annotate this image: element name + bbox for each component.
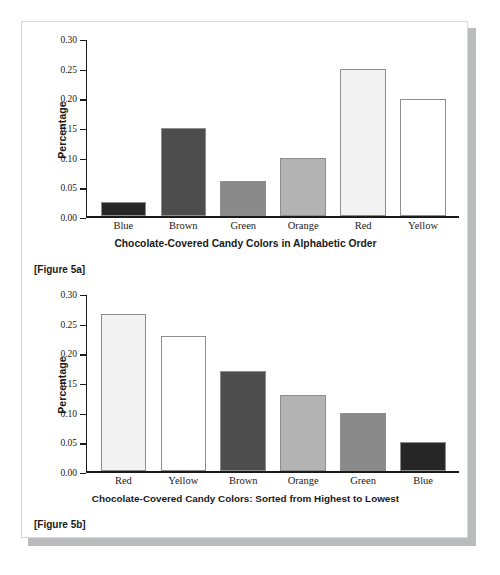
plot-area-5b: 0.300.250.200.150.100.050.00 xyxy=(86,295,457,473)
y-tick-label-5a-0: 0.30 xyxy=(60,35,77,45)
x-axis-title-5b: Chocolate-Covered Candy Colors: Sorted f… xyxy=(22,493,469,504)
plot-area-5a: 0.300.250.200.150.100.050.00 xyxy=(86,40,457,218)
figure-caption-5a: [Figure 5a] xyxy=(34,264,85,275)
figure-5a: Percentage 0.300.250.200.150.100.050.00 … xyxy=(22,30,469,285)
bar-5a-blue xyxy=(101,202,147,217)
y-tick-label-5a-1: 0.25 xyxy=(60,65,77,75)
x-tick-label-5b-orange: Orange xyxy=(273,475,333,486)
chart-5b: Percentage 0.300.250.200.150.100.050.00 xyxy=(22,285,469,485)
bar-slot-5b-blue xyxy=(393,295,453,471)
y-tick-label-5a-3: 0.15 xyxy=(60,124,77,134)
y-tick-label-5b-1: 0.25 xyxy=(60,320,77,330)
bar-slot-5b-orange xyxy=(273,295,333,471)
bar-5b-brown xyxy=(220,371,266,471)
bar-slot-5b-red xyxy=(93,295,153,471)
bar-5a-red xyxy=(340,69,386,216)
bar-5b-red xyxy=(101,314,147,471)
figure-5b: Percentage 0.300.250.200.150.100.050.00 … xyxy=(22,285,469,535)
x-tick-label-5b-red: Red xyxy=(93,475,153,486)
y-tick-5b-3 xyxy=(80,384,86,385)
x-axis-title-5a: Chocolate-Covered Candy Colors in Alphab… xyxy=(22,238,469,249)
bar-5b-green xyxy=(340,413,386,472)
y-tick-label-5a-6: 0.00 xyxy=(60,213,77,223)
bar-5a-yellow xyxy=(400,99,446,217)
y-tick-label-5b-0: 0.30 xyxy=(60,290,77,300)
x-tick-label-5b-green: Green xyxy=(333,475,393,486)
y-tick-5b-6 xyxy=(80,473,86,474)
y-tick-5b-2 xyxy=(80,354,86,355)
y-tick-5a-1 xyxy=(80,70,86,71)
bar-5b-orange xyxy=(280,395,326,471)
bar-5b-yellow xyxy=(161,336,207,471)
bar-slot-5b-yellow xyxy=(153,295,213,471)
y-tick-5b-1 xyxy=(80,325,86,326)
bar-slot-5a-red xyxy=(333,40,393,216)
y-tick-label-5b-2: 0.20 xyxy=(60,349,77,359)
bar-5a-brown xyxy=(161,128,207,216)
bar-5a-orange xyxy=(280,158,326,217)
x-tick-label-5b-blue: Blue xyxy=(393,475,453,486)
bar-5b-blue xyxy=(400,442,446,471)
bar-slot-5a-green xyxy=(213,40,273,216)
bar-slot-5a-orange xyxy=(273,40,333,216)
y-tick-label-5b-3: 0.15 xyxy=(60,379,77,389)
y-tick-5a-4 xyxy=(80,159,86,160)
bar-slot-5a-blue xyxy=(93,40,153,216)
bar-slot-5a-yellow xyxy=(393,40,453,216)
chart-5a: Percentage 0.300.250.200.150.100.050.00 xyxy=(22,30,469,230)
bar-group-5b xyxy=(87,295,457,471)
y-tick-5b-4 xyxy=(80,414,86,415)
x-tick-label-5b-yellow: Yellow xyxy=(153,475,213,486)
x-tick-label-5a-brown: Brown xyxy=(153,220,213,231)
x-tick-labels-5b: RedYellowBrownOrangeGreenBlue xyxy=(87,475,457,486)
y-tick-5a-5 xyxy=(80,188,86,189)
y-tick-5b-0 xyxy=(80,295,86,296)
x-tick-label-5a-orange: Orange xyxy=(273,220,333,231)
bar-slot-5a-brown xyxy=(153,40,213,216)
y-tick-5a-2 xyxy=(80,99,86,100)
bar-slot-5b-brown xyxy=(213,295,273,471)
y-tick-label-5b-4: 0.10 xyxy=(60,409,77,419)
page-root: Percentage 0.300.250.200.150.100.050.00 … xyxy=(0,0,500,575)
y-tick-5a-0 xyxy=(80,40,86,41)
x-tick-label-5a-red: Red xyxy=(333,220,393,231)
figure-card: Percentage 0.300.250.200.150.100.050.00 … xyxy=(21,21,468,538)
y-tick-label-5b-5: 0.05 xyxy=(60,438,77,448)
y-tick-5a-3 xyxy=(80,129,86,130)
x-tick-label-5b-brown: Brown xyxy=(213,475,273,486)
x-axis-line-5a xyxy=(86,216,459,218)
y-tick-5b-5 xyxy=(80,443,86,444)
figure-caption-5b: [Figure 5b] xyxy=(34,519,86,530)
y-tick-label-5a-5: 0.05 xyxy=(60,183,77,193)
y-tick-label-5b-6: 0.00 xyxy=(60,468,77,478)
y-tick-label-5a-2: 0.20 xyxy=(60,94,77,104)
x-axis-line-5b xyxy=(86,471,459,473)
x-tick-label-5a-blue: Blue xyxy=(93,220,153,231)
y-tick-5a-6 xyxy=(80,218,86,219)
x-tick-label-5a-green: Green xyxy=(213,220,273,231)
x-tick-label-5a-yellow: Yellow xyxy=(393,220,453,231)
bar-group-5a xyxy=(87,40,457,216)
x-tick-labels-5a: BlueBrownGreenOrangeRedYellow xyxy=(87,220,457,231)
bar-5a-green xyxy=(220,181,266,216)
y-tick-label-5a-4: 0.10 xyxy=(60,154,77,164)
bar-slot-5b-green xyxy=(333,295,393,471)
